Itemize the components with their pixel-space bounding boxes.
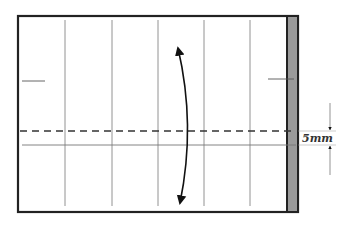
gray-edge-strip: [287, 16, 298, 212]
dimension-label: 5mm: [302, 132, 333, 145]
fold-diagram: 5mm: [0, 0, 354, 228]
